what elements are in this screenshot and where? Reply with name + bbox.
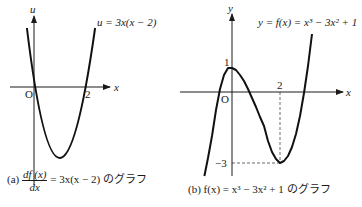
graph-b-x-label: x [345,86,351,98]
graph-b-origin-label: O [221,93,229,105]
caption-a-prefix: (a) [7,173,19,185]
caption-a-rest: = 3x(x − 2) のグラフ [50,173,147,185]
graph-a-tick-2: 2 [85,88,91,100]
caption-a: (a) df (x) dx = 3x(x − 2) のグラフ [7,168,147,193]
graph-a-u-label: u [30,3,36,15]
graph-a-origin-label: O [25,88,33,100]
graph-b: y x O 1 2 −3 y = f(x) = x³ − 3x² + 1 [180,2,357,176]
graph-b-curve [204,34,312,176]
graph-a: u x O 2 u = 3x(x − 2) [10,3,157,185]
graph-b-y-label: y [227,2,233,14]
graph-a-x-label: x [113,81,119,93]
graph-b-tick-x-2: 2 [277,79,283,91]
graph-b-curve-label: y = f(x) = x³ − 3x² + 1 [257,16,357,29]
caption-a-frac-num: df (x) [22,168,48,181]
graph-a-curve-label: u = 3x(x − 2) [97,16,157,29]
caption-a-fraction: df (x) dx [22,168,48,193]
caption-b: (b) f(x) = x³ − 3x² + 1 のグラフ [188,180,331,196]
caption-a-frac-den: dx [22,181,48,193]
graph-b-tick-y-1: 1 [224,56,230,68]
graph-b-tick-y-neg3: −3 [215,157,227,169]
